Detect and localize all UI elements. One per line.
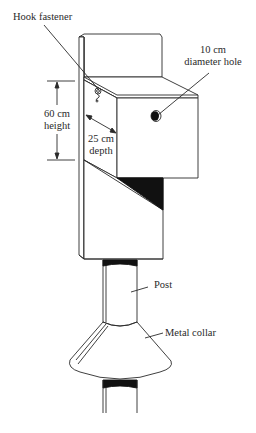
depth-label: 25 cm depth [84, 133, 118, 157]
depth-line2: depth [84, 145, 118, 157]
box-front-face [117, 98, 198, 178]
post-upper [103, 260, 137, 322]
entrance-hole [151, 111, 161, 122]
hole-size-line1: 10 cm [178, 44, 248, 56]
post-label: Post [154, 279, 172, 291]
hole-size-label: 10 cm diameter hole [178, 44, 248, 68]
metal-collar [69, 322, 171, 379]
hole-size-line2: diameter hole [178, 56, 248, 68]
hook-fastener-label: Hook fastener [13, 11, 72, 23]
metal-collar-label: Metal collar [165, 327, 216, 339]
height-line2: height [30, 120, 84, 132]
post-lower [103, 380, 137, 413]
post-leader [131, 287, 148, 292]
depth-line1: 25 cm [84, 133, 118, 145]
height-label: 60 cm height [30, 108, 84, 132]
height-line1: 60 cm [30, 108, 84, 120]
